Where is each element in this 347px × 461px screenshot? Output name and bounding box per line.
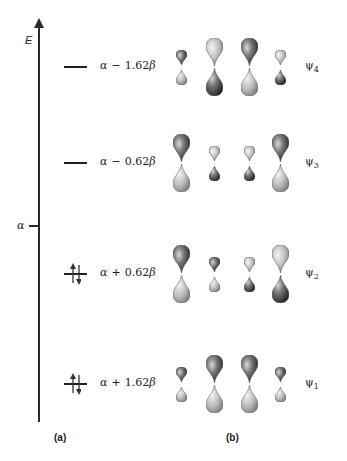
alpha-symbol: α xyxy=(100,59,107,72)
alpha-tick xyxy=(29,225,39,227)
energy-value: α+0.62β xyxy=(100,266,156,279)
energy-value: α−0.62β xyxy=(100,155,156,168)
sign: + xyxy=(111,266,120,279)
level-line xyxy=(64,162,87,164)
psi-symbol: ψ xyxy=(305,59,314,72)
beta-symbol: β xyxy=(149,266,155,279)
psi-subscript: 3 xyxy=(314,161,319,170)
p-orbital-icon xyxy=(176,50,187,85)
energy-value: α−1.62β xyxy=(100,59,156,72)
energy-value: α+1.62β xyxy=(100,376,156,389)
p-orbital-icon xyxy=(209,146,220,181)
panel-label-a: (a) xyxy=(54,432,66,443)
p-orbital-icon xyxy=(241,38,258,96)
energy-axis xyxy=(38,26,40,422)
psi-subscript: 2 xyxy=(314,272,319,281)
p-orbital-icon xyxy=(176,367,187,402)
electron-pair-icon xyxy=(69,372,81,396)
coefficient: 0.62 xyxy=(125,155,150,168)
psi-symbol: ψ xyxy=(305,376,314,389)
wavefunction-label: ψ2 xyxy=(305,266,319,281)
p-orbital-icon xyxy=(209,257,220,292)
alpha-symbol: α xyxy=(100,376,107,389)
p-orbital-icon xyxy=(272,245,289,303)
psi-subscript: 4 xyxy=(314,65,319,74)
sign: + xyxy=(111,376,120,389)
coefficient: 1.62 xyxy=(125,376,150,389)
beta-symbol: β xyxy=(149,59,155,72)
beta-symbol: β xyxy=(149,155,155,168)
p-orbital-icon xyxy=(173,245,190,303)
alpha-symbol: α xyxy=(100,155,107,168)
p-orbital-icon xyxy=(275,367,286,402)
alpha-reference-label: α xyxy=(17,219,24,232)
psi-symbol: ψ xyxy=(305,155,314,168)
energy-axis-label: E xyxy=(25,34,32,46)
wavefunction-label: ψ3 xyxy=(305,155,319,170)
electron-pair-icon xyxy=(69,262,81,286)
coefficient: 1.62 xyxy=(125,59,150,72)
p-orbital-icon xyxy=(241,355,258,413)
sign: − xyxy=(111,155,120,168)
p-orbital-icon xyxy=(244,146,255,181)
wavefunction-label: ψ1 xyxy=(305,376,319,391)
p-orbital-icon xyxy=(272,134,289,192)
beta-symbol: β xyxy=(149,376,155,389)
psi-subscript: 1 xyxy=(314,382,319,391)
p-orbital-icon xyxy=(206,38,223,96)
level-line xyxy=(64,66,87,68)
coefficient: 0.62 xyxy=(125,266,150,279)
psi-symbol: ψ xyxy=(305,266,314,279)
panel-label-b: (b) xyxy=(226,432,239,443)
wavefunction-label: ψ4 xyxy=(305,59,319,74)
p-orbital-icon xyxy=(244,257,255,292)
p-orbital-icon xyxy=(206,355,223,413)
alpha-symbol: α xyxy=(100,266,107,279)
p-orbital-icon xyxy=(173,134,190,192)
sign: − xyxy=(111,59,120,72)
p-orbital-icon xyxy=(275,50,286,85)
